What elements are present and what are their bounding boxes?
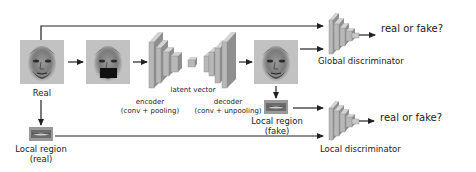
encoder-label-line1: encoder — [115, 98, 185, 107]
latent-vector — [188, 57, 197, 67]
latent-vector-label: latent vector — [163, 86, 223, 95]
local-region-real-image — [29, 127, 53, 141]
decoder-label: decoder (conv + unpooling) — [190, 98, 266, 115]
real-face-image — [20, 40, 64, 84]
mask-region — [100, 68, 117, 78]
local-region-real-label: Local region (real) — [6, 144, 76, 164]
global-discriminator-label: Global discriminator — [318, 56, 408, 66]
decoder-network — [204, 32, 236, 88]
local-fake-label-line1: Local region — [242, 116, 312, 126]
real-label: Real — [28, 88, 56, 98]
local-real-label-line2: (real) — [6, 154, 76, 164]
local-discriminator-label: Local discriminator — [320, 144, 410, 154]
local-region-fake-label: Local region (fake) — [242, 116, 312, 136]
local-discriminator-network — [329, 101, 374, 140]
arrow-real-to-global-disc — [41, 26, 323, 40]
local-output-label: real or fake? — [380, 112, 442, 123]
local-fake-label-line2: (fake) — [242, 126, 312, 136]
local-real-label-line1: Local region — [6, 144, 76, 154]
global-output-label: real or fake? — [381, 23, 443, 34]
encoder-label-line2: (conv + pooling) — [115, 107, 185, 116]
global-discriminator-network — [329, 13, 375, 54]
encoder-network — [149, 32, 182, 88]
encoder-label: encoder (conv + pooling) — [115, 98, 185, 115]
generated-face-image — [254, 40, 298, 84]
decoder-label-line1: decoder — [190, 98, 266, 107]
decoder-label-line2: (conv + unpooling) — [190, 107, 266, 116]
local-region-fake-image — [264, 100, 288, 114]
masked-face-image — [86, 40, 130, 84]
